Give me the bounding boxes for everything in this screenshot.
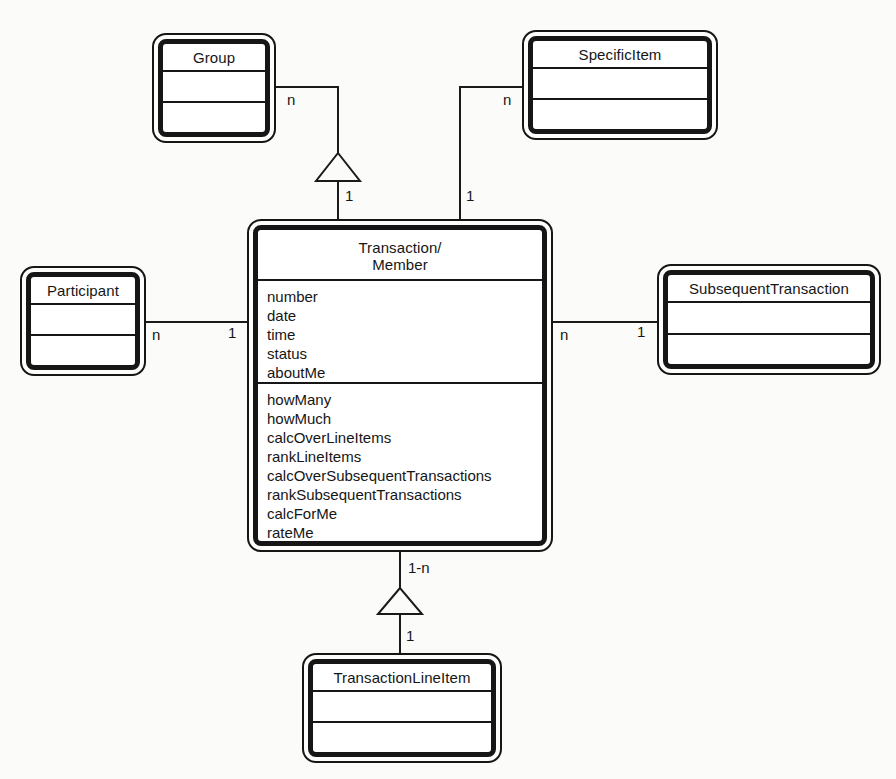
class-box-participant-frame: Participant	[26, 272, 140, 370]
operation-item: rankLineItems	[267, 447, 536, 466]
operations-compartment-empty	[533, 98, 707, 129]
attributes-compartment-empty	[313, 690, 491, 721]
class-box-participant: Participant	[20, 266, 146, 376]
operation-item: howMuch	[267, 409, 536, 428]
class-title-transactionlineitem: TransactionLineItem	[313, 664, 491, 690]
class-title-line-1: Transaction/	[358, 239, 441, 256]
operations-compartment: howMany howMuch calcOverLineItems rankLi…	[258, 382, 542, 542]
class-box-specificitem: SpecificItem	[522, 30, 718, 140]
attribute-item: time	[267, 325, 536, 344]
multiplicity-label-subsequent-n: n	[560, 327, 568, 342]
operation-item: rankSubsequentTransactions	[267, 485, 536, 504]
operation-item: calcOverLineItems	[267, 428, 536, 447]
multiplicity-label-group-n: n	[287, 92, 295, 107]
class-box-subsequenttransaction-frame: SubsequentTransaction	[663, 270, 875, 369]
multiplicity-label-lineitem-1: 1	[406, 628, 414, 643]
class-box-transaction-member-frame: Transaction/ Member number date time sta…	[253, 225, 547, 546]
class-title-subsequenttransaction: SubsequentTransaction	[668, 275, 870, 301]
attribute-item: aboutMe	[267, 363, 536, 382]
multiplicity-label-participant-n: n	[152, 327, 160, 342]
attributes-compartment-empty	[31, 303, 135, 334]
multiplicity-label-specificitem-1: 1	[466, 188, 474, 203]
connector-group-transaction-upper	[276, 87, 338, 155]
class-title-participant: Participant	[31, 277, 135, 303]
class-box-group-frame: Group	[158, 39, 270, 137]
multiplicity-label-subsequent-1: 1	[637, 324, 645, 339]
class-title-specificitem: SpecificItem	[533, 41, 707, 67]
class-box-specificitem-frame: SpecificItem	[528, 36, 712, 134]
operation-item: howMany	[267, 390, 536, 409]
attributes-compartment: number date time status aboutMe	[258, 279, 542, 382]
attributes-compartment-empty	[533, 67, 707, 98]
operation-item: rateMe	[267, 523, 536, 542]
operation-item: calcOverSubsequentTransactions	[267, 466, 536, 485]
attribute-item: date	[267, 306, 536, 325]
attribute-item: status	[267, 344, 536, 363]
operations-compartment-empty	[668, 333, 870, 365]
generalization-triangle-top	[316, 153, 360, 181]
multiplicity-label-group-1: 1	[345, 188, 353, 203]
multiplicity-label-lineitem-1n: 1-n	[408, 560, 430, 575]
class-box-transactionlineitem-frame: TransactionLineItem	[308, 659, 496, 757]
operations-compartment-empty	[163, 101, 265, 132]
class-diagram-canvas: Group SpecificItem Participant Subsequen…	[0, 0, 896, 779]
multiplicity-label-specificitem-n: n	[503, 92, 511, 107]
attribute-item: number	[267, 287, 536, 306]
multiplicity-label-participant-1: 1	[228, 325, 236, 340]
class-title-group: Group	[163, 44, 265, 70]
operation-item: calcForMe	[267, 504, 536, 523]
class-box-group: Group	[152, 33, 276, 143]
attributes-compartment-empty	[163, 70, 265, 101]
class-title-line-2: Member	[372, 256, 428, 273]
class-box-subsequenttransaction: SubsequentTransaction	[657, 264, 881, 375]
attributes-compartment-empty	[668, 301, 870, 333]
operations-compartment-empty	[31, 334, 135, 365]
class-box-transaction-member: Transaction/ Member number date time sta…	[247, 219, 553, 552]
class-box-transactionlineitem: TransactionLineItem	[302, 653, 502, 763]
operations-compartment-empty	[313, 721, 491, 752]
class-title-transaction-member: Transaction/ Member	[258, 230, 542, 279]
generalization-triangle-bottom	[378, 588, 422, 614]
